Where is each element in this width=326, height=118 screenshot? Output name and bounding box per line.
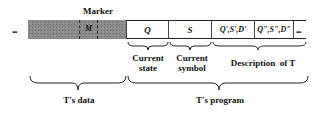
current-state-brace: [128, 42, 168, 50]
current-state-label: Current state: [126, 53, 170, 73]
description-brace: [213, 42, 306, 50]
program-brace: [128, 76, 308, 90]
description-label: Description of T: [218, 58, 308, 68]
program-label: T's program: [190, 95, 250, 105]
data-brace: [30, 76, 126, 90]
current-symbol-brace: [170, 42, 211, 50]
current-symbol-label: Current symbol: [170, 53, 214, 73]
data-label: T's data: [58, 95, 100, 105]
